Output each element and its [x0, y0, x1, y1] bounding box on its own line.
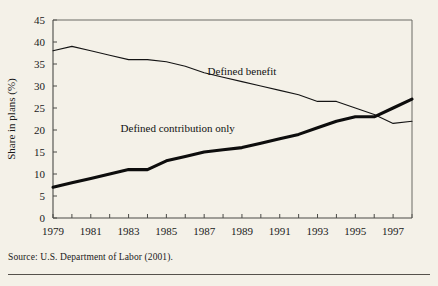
defined-contribution-label: Defined contribution only: [121, 122, 236, 134]
series-annotations: Defined benefitDefined contribution only: [121, 65, 277, 134]
y-tick-45: 45: [34, 14, 46, 26]
y-axis-title: Share in plans (%): [5, 78, 18, 160]
axis-ticks: [53, 20, 412, 218]
y-axis-tick-labels: 051015202530354045: [34, 14, 46, 224]
source-note: Source: U.S. Department of Labor (2001).: [8, 252, 173, 262]
x-tick-1993: 1993: [307, 225, 330, 237]
figure-container: 051015202530354045 197919811983198519871…: [0, 0, 438, 286]
y-tick-40: 40: [34, 36, 46, 48]
defined-benefit-label: Defined benefit: [208, 65, 277, 77]
x-tick-1989: 1989: [231, 225, 254, 237]
y-tick-20: 20: [34, 124, 46, 136]
series-line-defined-benefit: [53, 46, 412, 123]
x-axis-tick-labels: 1979198119831985198719891991199319951997: [42, 225, 405, 237]
line-chart: 051015202530354045 197919811983198519871…: [0, 0, 438, 250]
series-line-defined-contribution-only: [53, 99, 412, 187]
x-tick-1981: 1981: [80, 225, 102, 237]
y-tick-10: 10: [34, 168, 46, 180]
x-tick-1997: 1997: [382, 225, 405, 237]
y-tick-25: 25: [34, 102, 46, 114]
y-tick-15: 15: [34, 146, 46, 158]
x-tick-1979: 1979: [42, 225, 65, 237]
y-tick-0: 0: [40, 212, 46, 224]
x-tick-1995: 1995: [344, 225, 367, 237]
y-tick-5: 5: [40, 190, 46, 202]
x-tick-1985: 1985: [155, 225, 178, 237]
x-tick-1987: 1987: [193, 225, 216, 237]
y-tick-35: 35: [34, 58, 46, 70]
x-tick-1991: 1991: [269, 225, 291, 237]
y-tick-30: 30: [34, 80, 46, 92]
chart-area: 051015202530354045 197919811983198519871…: [0, 0, 438, 250]
x-tick-1983: 1983: [118, 225, 141, 237]
axis-lines: [53, 20, 412, 218]
footer-divider: [8, 274, 430, 275]
